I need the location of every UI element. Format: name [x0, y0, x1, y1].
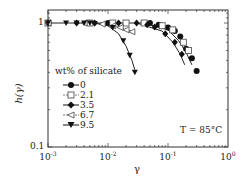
- legend-item-2-1: 2.1: [63, 90, 122, 100]
- open-square-marker-icon: [63, 91, 79, 99]
- x-tick-1e-2: 10-2: [99, 150, 116, 162]
- open-triangle-marker-icon: [63, 111, 79, 119]
- x-axis-label: γ: [134, 163, 140, 174]
- legend-item-3-5: 3.5: [63, 100, 122, 110]
- x-tick-1e-3: 10-3: [39, 150, 56, 162]
- x-tick-1e0: 100: [220, 150, 235, 162]
- legend-item-0: 0: [63, 80, 122, 90]
- legend-item-9-5: 9.5: [63, 120, 122, 130]
- y-axis-label: h(γ): [13, 83, 24, 103]
- legend: wt% of silicate 0 2.1 3.5 6.7 9.5: [55, 66, 122, 130]
- x-tick-1e-1: 10-1: [159, 150, 176, 162]
- temperature-annotation: T = 85°C: [180, 125, 222, 135]
- chart-plot-area: [0, 0, 245, 188]
- legend-title: wt% of silicate: [55, 66, 122, 76]
- legend-item-6-7: 6.7: [63, 110, 122, 120]
- filled-circle-marker-icon: [63, 81, 79, 89]
- filled-triangle-down-marker-icon: [63, 121, 79, 129]
- filled-diamond-marker-icon: [63, 101, 79, 109]
- y-tick-1: 1: [38, 17, 44, 27]
